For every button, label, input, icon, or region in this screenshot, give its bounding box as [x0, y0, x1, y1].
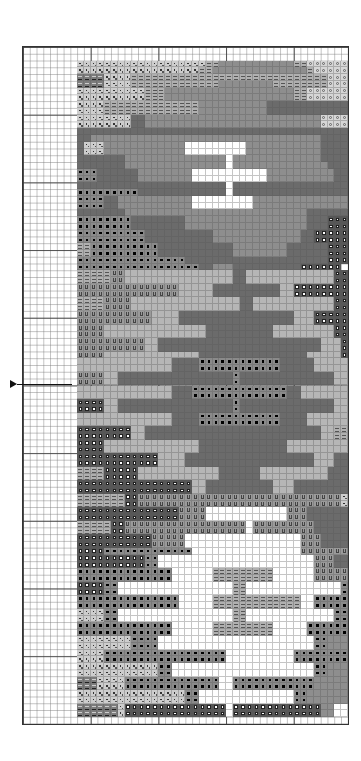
pattern-cell: [131, 128, 138, 135]
pattern-cell: [145, 534, 152, 541]
pattern-cell: [334, 609, 341, 616]
pattern-cell: [253, 710, 260, 717]
pattern-cell: [138, 94, 145, 101]
pattern-cell: [226, 230, 233, 237]
pattern-cell: [273, 379, 280, 386]
pattern-cell: [138, 629, 145, 636]
pattern-cell: [287, 460, 294, 467]
pattern-cell: [111, 582, 118, 589]
pattern-cell: [125, 331, 132, 338]
pattern-cell: [158, 372, 165, 379]
pattern-cell: [118, 548, 125, 555]
pattern-cell: [131, 331, 138, 338]
pattern-cell: [233, 663, 240, 670]
pattern-cell: [219, 155, 226, 162]
pattern-cell: [206, 460, 213, 467]
pattern-cell: [219, 534, 226, 541]
pattern-cell: [84, 182, 91, 189]
pattern-cell: [267, 656, 274, 663]
pattern-cell: [219, 182, 226, 189]
pattern-cell: [131, 284, 138, 291]
pattern-cell: [111, 616, 118, 623]
pattern-cell: [213, 331, 220, 338]
pattern-cell: [97, 101, 104, 108]
pattern-cell: [280, 514, 287, 521]
pattern-cell: [294, 318, 301, 325]
pattern-cell: [145, 595, 152, 602]
pattern-cell: [273, 555, 280, 562]
pattern-cell: [273, 101, 280, 108]
pattern-cell: [179, 325, 186, 332]
pattern-cell: [273, 413, 280, 420]
pattern-cell: [321, 189, 328, 196]
pattern-cell: [111, 358, 118, 365]
pattern-cell: [301, 453, 308, 460]
pattern-cell: [213, 643, 220, 650]
pattern-cell: [213, 318, 220, 325]
pattern-cell: [334, 176, 341, 183]
pattern-cell: [206, 670, 213, 677]
pattern-cell: [152, 345, 159, 352]
pattern-cell: [328, 331, 335, 338]
pattern-cell: [233, 501, 240, 508]
pattern-cell: [267, 697, 274, 704]
pattern-cell: [152, 257, 159, 264]
pattern-cell: [246, 602, 253, 609]
pattern-cell: [233, 352, 240, 359]
pattern-cell: [125, 128, 132, 135]
pattern-cell: [253, 379, 260, 386]
pattern-cell: [213, 710, 220, 717]
pattern-cell: [314, 399, 321, 406]
pattern-cell: [172, 656, 179, 663]
pattern-cell: [301, 704, 308, 711]
pattern-cell: [219, 446, 226, 453]
pattern-cell: [125, 548, 132, 555]
pattern-cell: [334, 555, 341, 562]
pattern-cell: [199, 365, 206, 372]
pattern-cell: [328, 270, 335, 277]
pattern-cell: [158, 568, 165, 575]
pattern-cell: [213, 562, 220, 569]
pattern-cell: [341, 555, 348, 562]
pattern-cell: [226, 453, 233, 460]
pattern-cell: [253, 616, 260, 623]
pattern-cell: [273, 297, 280, 304]
pattern-cell: [138, 589, 145, 596]
pattern-cell: [226, 541, 233, 548]
pattern-cell: [219, 81, 226, 88]
pattern-cell: [158, 622, 165, 629]
pattern-cell: [273, 358, 280, 365]
pattern-cell: [118, 284, 125, 291]
pattern-cell: [192, 616, 199, 623]
pattern-cell: [131, 203, 138, 210]
pattern-cell: [233, 304, 240, 311]
pattern-cell: [246, 575, 253, 582]
pattern-cell: [145, 710, 152, 717]
pattern-cell: [314, 602, 321, 609]
pattern-cell: [125, 595, 132, 602]
pattern-cell: [185, 683, 192, 690]
pattern-cell: [138, 203, 145, 210]
pattern-cell: [328, 426, 335, 433]
pattern-cell: [273, 237, 280, 244]
pattern-cell: [307, 352, 314, 359]
pattern-cell: [287, 704, 294, 711]
pattern-cell: [97, 149, 104, 156]
pattern-cell: [165, 568, 172, 575]
pattern-cell: [138, 440, 145, 447]
pattern-cell: [91, 670, 98, 677]
pattern-cell: [341, 325, 348, 332]
pattern-cell: [165, 338, 172, 345]
pattern-cell: [77, 487, 84, 494]
pattern-cell: [287, 413, 294, 420]
pattern-cell: [213, 277, 220, 284]
pattern-cell: [301, 365, 308, 372]
pattern-cell: [179, 426, 186, 433]
pattern-cell: [185, 372, 192, 379]
pattern-cell: [145, 81, 152, 88]
pattern-cell: [280, 304, 287, 311]
pattern-cell: [145, 426, 152, 433]
pattern-cell: [111, 663, 118, 670]
pattern-cell: [334, 650, 341, 657]
pattern-cell: [185, 406, 192, 413]
